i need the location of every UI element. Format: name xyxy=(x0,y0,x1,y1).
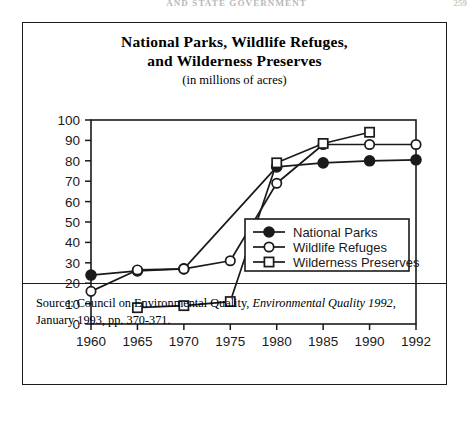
legend-marker-filled-circle xyxy=(264,227,274,237)
data-point-open-circle xyxy=(365,140,374,149)
source-note: Source: Council on Environmental Quality… xyxy=(36,295,431,328)
y-axis-tick-label: 100 xyxy=(57,113,80,128)
data-point-filled-circle xyxy=(318,158,328,168)
x-axis-tick-label: 1985 xyxy=(308,334,338,349)
x-axis-tick-label: 1992 xyxy=(401,334,431,349)
data-point-open-square xyxy=(272,158,281,167)
data-point-open-square xyxy=(319,139,328,148)
x-axis-tick-label: 1960 xyxy=(76,334,106,349)
y-axis-tick-label: 30 xyxy=(65,256,80,271)
y-axis-tick-label: 40 xyxy=(65,235,80,250)
data-point-open-circle xyxy=(272,179,281,188)
x-axis-tick-label: 1965 xyxy=(122,334,152,349)
y-axis-tick-label: 60 xyxy=(65,195,80,210)
data-point-open-circle xyxy=(411,140,420,149)
source-suffix: , xyxy=(393,296,396,310)
y-axis-tick-label: 70 xyxy=(65,174,80,189)
figure-container: National Parks, Wildlife Refuges, and Wi… xyxy=(22,22,447,385)
y-axis-tick-label: 90 xyxy=(65,133,80,148)
data-point-open-circle xyxy=(179,264,188,273)
legend-marker-open-circle xyxy=(264,242,273,251)
source-prefix: Source: Council on Environmental Quality… xyxy=(36,296,252,310)
figure-title-block: National Parks, Wildlife Refuges, and Wi… xyxy=(23,23,446,88)
data-point-filled-circle xyxy=(364,156,374,166)
legend-label-1: Wildlife Refuges xyxy=(293,240,387,255)
legend-label-0: National Parks xyxy=(293,225,378,240)
source-divider xyxy=(23,283,446,284)
data-point-filled-circle xyxy=(86,270,96,280)
figure-subtitle: (in millions of acres) xyxy=(23,73,446,88)
legend-marker-open-square xyxy=(264,257,273,266)
figure-title-line-1: National Parks, Wildlife Refuges, xyxy=(23,32,446,51)
page-number: 259 xyxy=(454,0,468,8)
x-axis-tick-label: 1970 xyxy=(169,334,199,349)
y-axis-tick-label: 80 xyxy=(65,154,80,169)
data-point-open-circle xyxy=(226,256,235,265)
data-point-open-circle xyxy=(133,265,142,274)
running-head: AND STATE GOVERNMENT xyxy=(0,0,473,8)
x-axis-tick-label: 1990 xyxy=(355,334,385,349)
source-italic-title: Environmental Quality 1992 xyxy=(252,296,392,310)
legend-label-2: Wilderness Preserves xyxy=(293,255,420,270)
figure-title-line-2: and Wilderness Preserves xyxy=(23,51,446,70)
data-point-filled-circle xyxy=(411,155,421,165)
data-point-open-square xyxy=(365,128,374,137)
x-axis-tick-label: 1975 xyxy=(215,334,245,349)
source-line-2: January 1993, pp. 370-371. xyxy=(36,313,171,327)
x-axis-tick-label: 1980 xyxy=(262,334,292,349)
y-axis-tick-label: 50 xyxy=(65,215,80,230)
